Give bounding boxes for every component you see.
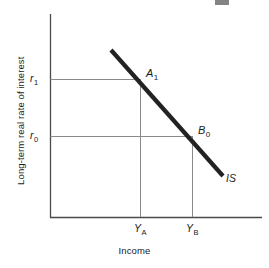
x-axis-title: Income: [0, 246, 269, 256]
x-tick-label-yb: YB: [186, 223, 198, 234]
x-tick-ya-sub: A: [141, 228, 146, 237]
y-tick-r1-sub: 1: [34, 78, 38, 87]
point-label-a1: A1: [146, 68, 158, 79]
y-axis-title: Long-term real rate of interest: [16, 46, 26, 196]
y-tick-label-r1: r1: [30, 73, 38, 84]
point-a1-sub: 1: [154, 73, 158, 82]
x-tick-yb-base: Y: [186, 222, 193, 234]
y-tick-r0-base: r: [30, 129, 34, 141]
y-tick-label-r0: r0: [30, 130, 38, 141]
y-tick-r0-sub: 0: [34, 135, 38, 144]
x-tick-label-ya: YA: [134, 223, 146, 234]
point-b0-sub: 0: [206, 130, 210, 139]
x-tick-ya-base: Y: [134, 222, 141, 234]
is-curve: [111, 50, 223, 176]
is-curve-figure: Long-term real rate of interest Income r…: [0, 0, 269, 268]
point-label-b0: B0: [198, 125, 210, 136]
y-tick-r1-base: r: [30, 72, 34, 84]
point-a1-base: A: [146, 67, 153, 79]
point-b0-base: B: [198, 124, 205, 136]
curve-label-is: IS: [226, 173, 236, 184]
x-tick-yb-sub: B: [193, 228, 198, 237]
